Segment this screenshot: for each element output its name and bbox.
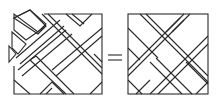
right-figure-assembled [128, 14, 208, 94]
strip-e-cap [30, 56, 36, 60]
strip-f [14, 80, 30, 94]
top-notch-inner [72, 14, 84, 24]
woven-square-diagram [0, 0, 218, 100]
equals-sign [108, 55, 122, 60]
strip-a-edge2 [20, 26, 64, 64]
loose-strip-top-body [14, 10, 46, 34]
right-square-outline [128, 14, 208, 94]
strip-e-edge1 [30, 60, 66, 94]
bottom-right-corner [90, 82, 102, 94]
strip-e-edge2 [36, 56, 74, 94]
left-figure-pieces [9, 10, 102, 94]
left-square-outline [14, 14, 102, 94]
bottom-notch-inner [46, 88, 52, 94]
